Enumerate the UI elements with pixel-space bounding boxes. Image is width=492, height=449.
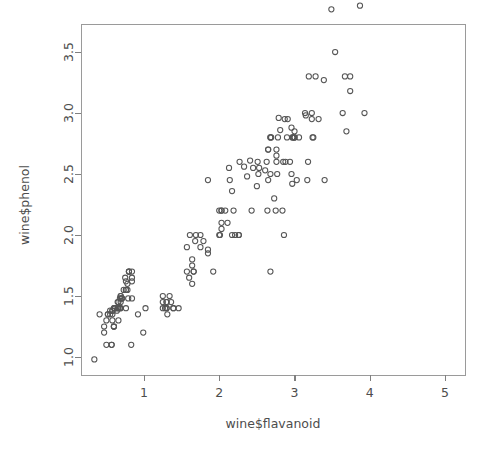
x-tick-label: 4 xyxy=(366,385,374,400)
scatter-plot-figure: 1.01.52.02.53.03.5 12345 wine$flavanoid … xyxy=(0,0,492,449)
y-tick-label: 1.5 xyxy=(61,286,76,306)
y-tick-label: 2.5 xyxy=(61,164,76,184)
y-axis-title: wine$phenol xyxy=(17,165,32,245)
y-tick-label: 3.0 xyxy=(61,103,76,123)
figure-background xyxy=(0,0,492,449)
y-tick-label: 1.0 xyxy=(61,347,76,367)
y-tick-label: 3.5 xyxy=(61,42,76,62)
x-tick-label: 2 xyxy=(215,385,223,400)
x-tick-label: 1 xyxy=(140,385,148,400)
y-tick-label: 2.0 xyxy=(61,225,76,245)
chart-canvas: 1.01.52.02.53.03.5 12345 wine$flavanoid … xyxy=(0,0,492,449)
x-axis-title: wine$flavanoid xyxy=(226,416,321,431)
x-tick-label: 3 xyxy=(291,385,299,400)
x-tick-label: 5 xyxy=(441,385,449,400)
